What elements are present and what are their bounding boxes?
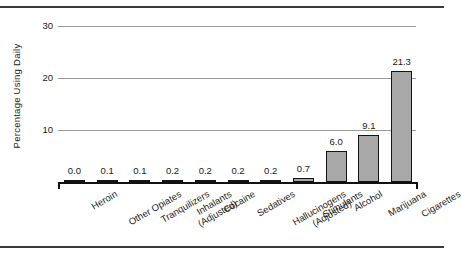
bar-value-label: 0.0 xyxy=(68,166,81,176)
bar-value-label: 21.3 xyxy=(392,57,411,67)
bar-value-label: 0.1 xyxy=(100,166,113,176)
bar-value-label: 0.7 xyxy=(297,164,310,174)
bar-value-label: 0.2 xyxy=(199,166,212,176)
bar xyxy=(391,71,412,182)
bar-value-label: 0.2 xyxy=(231,166,244,176)
y-tick-label-20: 20 xyxy=(42,73,53,83)
x-category-label: Heroin xyxy=(90,189,120,212)
x-category-label: Sedatives xyxy=(256,189,297,219)
gridline-20 xyxy=(58,78,416,79)
bar-value-label: 0.2 xyxy=(264,166,277,176)
y-tick-label-30: 30 xyxy=(42,21,53,31)
bar-value-label: 0.2 xyxy=(166,166,179,176)
y-tick-label-10: 10 xyxy=(42,125,53,135)
bar xyxy=(326,151,347,182)
top-divider-rule xyxy=(0,6,444,8)
x-axis-baseline xyxy=(58,182,418,184)
bar-value-label: 0.1 xyxy=(133,166,146,176)
plot-area: 102030 0.00.10.10.20.20.20.20.76.09.121.… xyxy=(58,18,418,182)
y-axis-title: Percentage Using Daily xyxy=(11,21,27,171)
bar xyxy=(358,135,379,182)
bar-value-label: 6.0 xyxy=(330,137,343,147)
bar-value-label: 9.1 xyxy=(362,121,375,131)
x-axis-left-endcap xyxy=(58,182,60,189)
bottom-divider-rule xyxy=(0,246,444,248)
gridline-30 xyxy=(58,26,416,27)
x-axis-right-endcap xyxy=(416,182,418,189)
